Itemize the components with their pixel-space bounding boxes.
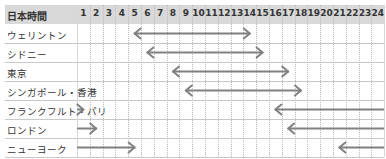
time-arrows (5, 5, 384, 159)
grid-line (384, 5, 385, 157)
